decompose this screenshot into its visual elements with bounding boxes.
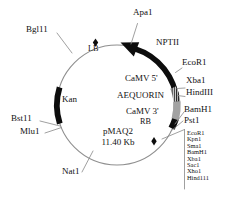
feature-arc-camv5-outline <box>174 88 177 102</box>
plasmid-size: 11.40 Kb <box>88 138 148 147</box>
leader-line-bgl11 <box>57 33 72 53</box>
label-nptii: NPTII <box>156 38 179 47</box>
label-bamh1: BamH1 <box>184 105 212 114</box>
label-kan: Kan <box>62 95 77 104</box>
leader-line-mcs <box>162 130 185 140</box>
label-hindiii: HindIII <box>186 88 213 97</box>
label-bst11: Bst11 <box>11 114 32 123</box>
label-lb: LB <box>88 45 98 53</box>
label-ecor1-top: EcoR1 <box>182 58 207 67</box>
leader-line-mlu1 <box>45 128 62 134</box>
label-xba1: Xba1 <box>186 76 206 85</box>
leader-line-xba1 <box>177 88 185 89</box>
label-apa1: Apa1 <box>133 8 153 17</box>
label-aequorin: AEQUORIN <box>117 91 164 100</box>
leader-line-ecor1-top <box>176 68 183 73</box>
label-nat1: Nat1 <box>62 167 80 176</box>
marker-rb-diamond <box>151 137 156 145</box>
label-bgl11: Bgl11 <box>26 25 48 34</box>
leader-line-nat1 <box>82 151 93 172</box>
label-camv5: CaMV 5' <box>125 74 158 83</box>
label-camv3: CaMV 3' <box>126 107 159 116</box>
label-pst1: Pst1 <box>184 116 200 125</box>
label-mlu1: Mlu1 <box>20 127 40 136</box>
plasmid-name: pMAQ2 <box>88 127 148 136</box>
label-rb: RB <box>140 118 151 126</box>
leader-line-apa1 <box>131 24 138 45</box>
feature-arc-aequorin-outline <box>175 102 177 120</box>
mcs-site: Hind111 <box>187 175 209 181</box>
feature-arrowhead-nptii <box>121 42 140 56</box>
feature-arc-kan <box>57 87 60 123</box>
mcs-site-list: EcoR1 Kpn1 Sma1 BamH1 Xba1 Sac1 Xho1 Hin… <box>187 130 209 181</box>
